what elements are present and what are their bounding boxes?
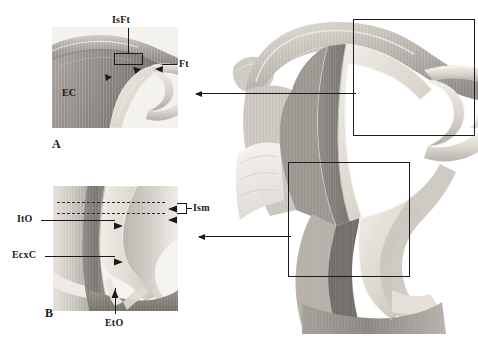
- connector-arrow-to-panel-a: [196, 93, 356, 94]
- label-isft: IsFt: [112, 15, 130, 25]
- panel-a-artwork: [52, 27, 178, 128]
- panel-a-illustration: [52, 27, 178, 128]
- ism-bracket: [177, 203, 187, 214]
- figure-container: IsFt Ft EC A: [0, 0, 478, 339]
- panel-b-caption: B: [45, 307, 53, 319]
- ism-leader-line: [187, 208, 192, 209]
- label-eto: EtO: [105, 318, 123, 328]
- roi-box-bottom[interactable]: [288, 162, 410, 277]
- ism-dashed-line-lower: [57, 213, 165, 214]
- label-ft: Ft: [179, 59, 189, 69]
- label-ec: EC: [62, 88, 76, 98]
- ism-arrowhead-lower: [168, 210, 177, 218]
- ft-leader-line: [162, 64, 177, 65]
- connector-arrow-to-panel-b: [199, 236, 291, 237]
- eto-arrowhead: [111, 284, 119, 293]
- panel-a-caption: A: [52, 138, 61, 150]
- label-ism: Ism: [193, 203, 210, 213]
- label-ecxc: EcxC: [12, 250, 36, 260]
- ism-arrowhead-upper: [168, 199, 177, 207]
- isft-arrowhead-inner: [133, 61, 141, 69]
- isft-arrowhead-lower: [104, 68, 112, 76]
- ito-leader-line: [41, 220, 115, 221]
- ito-arrowhead: [114, 216, 123, 224]
- label-ito: ItO: [17, 214, 33, 224]
- ecxc-leader-line: [45, 256, 115, 257]
- roi-box-top[interactable]: [353, 19, 475, 136]
- isft-leader-line: [128, 28, 129, 54]
- ism-dashed-line-upper: [57, 202, 165, 203]
- ecxc-arrowhead: [114, 252, 123, 260]
